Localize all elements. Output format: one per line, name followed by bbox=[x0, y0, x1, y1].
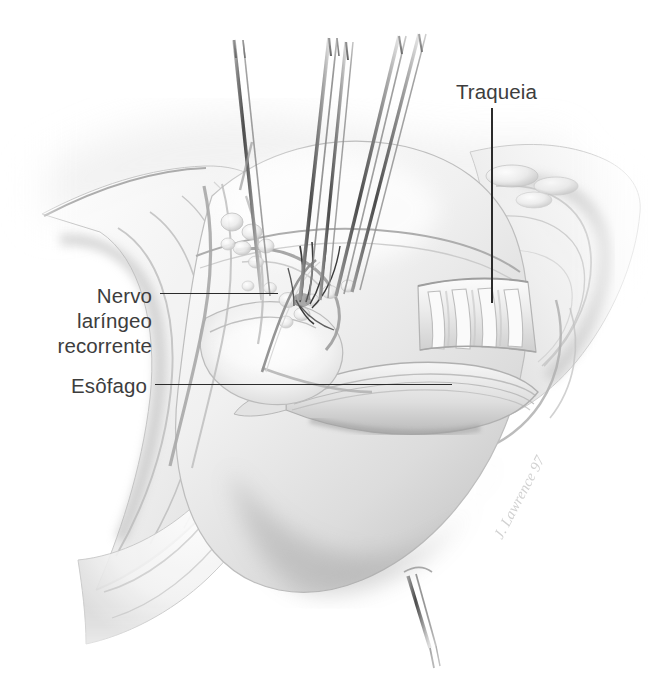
svg-text:J. Lawrence 97: J. Lawrence 97 bbox=[491, 452, 549, 542]
label-nervo-laringeo-recorrente: Nervo laríngeo recorrente bbox=[0, 283, 152, 358]
artist-signature: J. Lawrence 97 bbox=[491, 452, 549, 542]
leader-line-traqueia bbox=[491, 108, 493, 303]
label-traqueia: Traqueia bbox=[456, 79, 537, 104]
illustration-canvas: J. Lawrence 97 Traqueia Nervo laríngeo r… bbox=[0, 0, 649, 685]
leader-line-nervo-laringeo-recorrente bbox=[160, 293, 278, 295]
trachea bbox=[418, 279, 536, 352]
label-esofago: Esôfago bbox=[0, 373, 147, 398]
leader-line-esofago bbox=[155, 384, 452, 386]
